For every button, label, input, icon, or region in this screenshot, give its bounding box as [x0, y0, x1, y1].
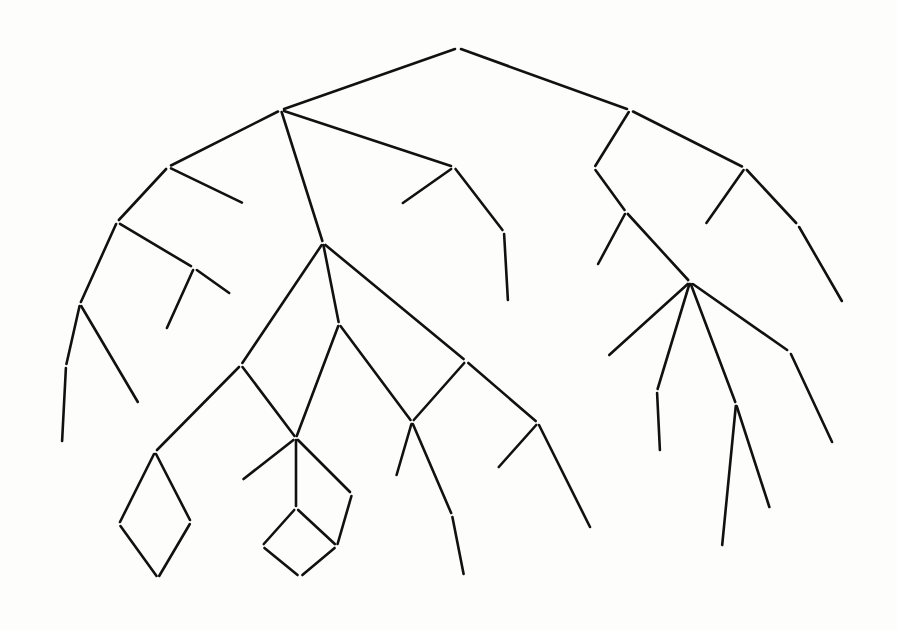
ontology-diagram [0, 0, 897, 630]
node-layer [0, 0, 897, 630]
